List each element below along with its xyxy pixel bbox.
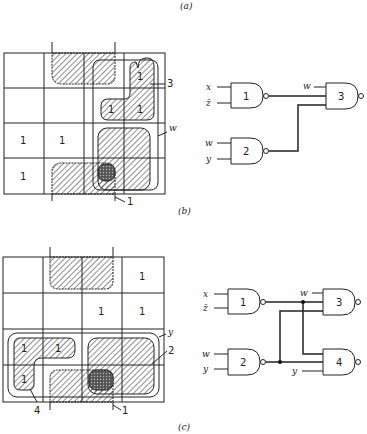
cell-one: 1	[59, 135, 65, 146]
kmap-b: 1 1 1 1 1 1 3 w 1	[4, 42, 177, 207]
input-zbar: z̄	[205, 98, 211, 108]
group-label-w: w	[169, 123, 177, 133]
group-label-2: 2	[168, 345, 174, 356]
cell-one: 1	[55, 343, 61, 354]
input-w-gate3: w	[300, 288, 308, 298]
junction-dot	[301, 300, 305, 304]
cell-one: 1	[137, 104, 143, 115]
input-y: y	[205, 154, 212, 164]
cell-one: 1	[139, 271, 145, 282]
gate-1: 1	[243, 91, 249, 102]
gate-3: 3	[338, 91, 344, 102]
input-w-gate3: w	[303, 81, 311, 91]
caption-a: (a)	[180, 1, 193, 11]
figure-canvas: (a) 1 1 1 1 1 1 3 w 1	[0, 0, 367, 434]
cell-one: 1	[137, 71, 143, 82]
cell-one: 1	[108, 104, 114, 115]
gate-1: 1	[240, 297, 246, 308]
group-label-1: 1	[127, 196, 133, 207]
caption-b: (b)	[178, 206, 191, 216]
input-x: x	[203, 289, 208, 299]
group-label-3: 3	[167, 78, 173, 89]
group-label-4: 4	[34, 405, 40, 416]
cell-one: 1	[139, 306, 145, 317]
kmap-c: 1 1 1 1 1 1 y 2 4 1	[3, 247, 174, 416]
cell-one: 1	[21, 343, 27, 354]
cell-one: 1	[20, 171, 26, 182]
group-label-y: y	[167, 327, 174, 337]
group-label-1: 1	[122, 405, 128, 416]
cell-one: 1	[98, 306, 104, 317]
input-x: x	[206, 82, 211, 92]
gate-3: 3	[336, 297, 342, 308]
gate-2: 2	[240, 357, 246, 368]
input-y: y	[202, 364, 209, 374]
gate-2: 2	[243, 146, 249, 157]
cell-one: 1	[20, 135, 26, 146]
caption-c: (c)	[178, 422, 191, 432]
input-y-gate4: y	[291, 366, 298, 376]
junction-dot	[278, 360, 282, 364]
gate-4: 4	[336, 357, 342, 368]
input-zbar: z̄	[202, 303, 208, 313]
input-w: w	[205, 138, 213, 148]
input-w: w	[202, 349, 210, 359]
cell-one: 1	[21, 374, 27, 385]
